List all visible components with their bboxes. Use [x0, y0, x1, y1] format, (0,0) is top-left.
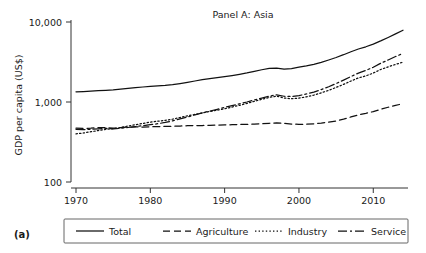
legend: TotalAgricultureIndustryService	[76, 226, 406, 237]
y-tick-label: 10,000	[29, 17, 62, 28]
x-tick-label: 1970	[64, 195, 88, 206]
x-tick-label: 2010	[361, 195, 385, 206]
legend-label-service: Service	[371, 226, 406, 237]
y-tick-label: 100	[44, 177, 62, 188]
y-axis-ticks: 1001,00010,000	[29, 17, 71, 188]
legend-label-total: Total	[108, 226, 131, 237]
x-tick-label: 1980	[138, 195, 162, 206]
legend-label-industry: Industry	[288, 226, 327, 237]
data-series-group	[76, 30, 403, 134]
series-line-total	[76, 30, 403, 92]
series-line-industry	[76, 62, 403, 134]
chart-title: Panel A: Asia	[212, 9, 273, 20]
series-line-service	[76, 53, 403, 129]
figure-panel-a: Panel A: Asia GDP per capita (US$) 1001,…	[0, 0, 426, 253]
y-tick-label: 1,000	[35, 97, 62, 108]
legend-label-agriculture: Agriculture	[196, 226, 248, 237]
x-tick-label: 1990	[213, 195, 237, 206]
panel-letter: (a)	[14, 229, 30, 240]
x-axis-ticks: 19701980199020002010	[64, 188, 385, 206]
series-line-agriculture	[76, 104, 403, 129]
y-axis-title: GDP per capita (US$)	[13, 55, 24, 156]
x-tick-label: 2000	[287, 195, 311, 206]
line-chart: Panel A: Asia GDP per capita (US$) 1001,…	[0, 0, 426, 253]
